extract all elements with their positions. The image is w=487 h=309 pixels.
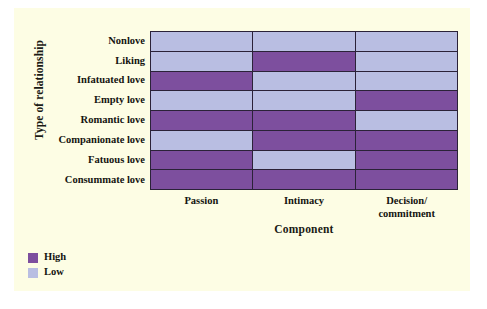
- matrix-cell: [356, 32, 457, 51]
- matrix-row: [151, 151, 457, 171]
- matrix-row: [151, 111, 457, 131]
- matrix-cell: [253, 131, 355, 150]
- column-label-line: Intimacy: [253, 195, 356, 208]
- matrix-row: [151, 52, 457, 72]
- matrix-cell: [356, 170, 457, 189]
- matrix-cell: [253, 32, 355, 51]
- legend: HighLow: [28, 251, 66, 281]
- matrix-row: [151, 72, 457, 92]
- matrix-cell: [253, 151, 355, 170]
- heatmap-matrix: [150, 31, 458, 190]
- matrix-cell: [151, 91, 253, 110]
- matrix-row: [151, 131, 457, 151]
- column-label-line: Decision/: [355, 195, 458, 208]
- column-label-line: Passion: [150, 195, 253, 208]
- y-axis-title: Type of relationship: [33, 15, 49, 165]
- column-label: Decision/commitment: [355, 193, 458, 221]
- matrix-cell: [253, 91, 355, 110]
- column-label-row: PassionIntimacyDecision/commitment: [150, 193, 458, 221]
- row-label: Companionate love: [52, 130, 148, 150]
- matrix-cell: [253, 52, 355, 71]
- matrix-cell: [151, 151, 253, 170]
- matrix-cell: [356, 91, 457, 110]
- column-label: Passion: [150, 193, 253, 221]
- matrix-cell: [253, 170, 355, 189]
- row-label: Infatuated love: [52, 71, 148, 91]
- matrix-cell: [356, 52, 457, 71]
- matrix-cell: [356, 111, 457, 130]
- matrix-cell: [356, 72, 457, 91]
- matrix-cell: [151, 111, 253, 130]
- row-label: Nonlove: [52, 31, 148, 51]
- matrix-row: [151, 91, 457, 111]
- row-label-column: NonloveLikingInfatuated loveEmpty loveRo…: [52, 31, 148, 190]
- row-label: Fatuous love: [52, 150, 148, 170]
- legend-label: High: [44, 252, 66, 263]
- legend-entry: High: [28, 251, 66, 264]
- row-label: Empty love: [52, 91, 148, 111]
- matrix-cell: [253, 111, 355, 130]
- high-swatch-icon: [28, 253, 38, 263]
- column-label: Intimacy: [253, 193, 356, 221]
- legend-label: Low: [44, 267, 64, 278]
- legend-entry: Low: [28, 266, 66, 279]
- row-label: Romantic love: [52, 111, 148, 131]
- matrix-cell: [151, 52, 253, 71]
- matrix-row: [151, 170, 457, 189]
- column-label-line: commitment: [355, 208, 458, 221]
- matrix-row: [151, 32, 457, 52]
- matrix-cell: [151, 72, 253, 91]
- matrix-cell: [151, 170, 253, 189]
- matrix-cell: [253, 72, 355, 91]
- low-swatch-icon: [28, 268, 38, 278]
- row-label: Liking: [52, 51, 148, 71]
- figure-panel: Type of relationship NonloveLikingInfatu…: [14, 8, 470, 291]
- x-axis-title: Component: [150, 223, 458, 235]
- matrix-cell: [151, 131, 253, 150]
- row-label: Consummate love: [52, 170, 148, 190]
- matrix-cell: [356, 151, 457, 170]
- matrix-cell: [151, 32, 253, 51]
- matrix-cell: [356, 131, 457, 150]
